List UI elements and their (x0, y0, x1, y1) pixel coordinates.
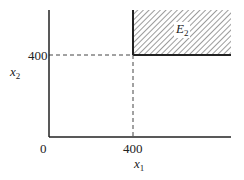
x-tick-400: 400 (123, 142, 143, 155)
region-label: E2 (174, 22, 190, 38)
y-tick-400: 400 (28, 49, 48, 62)
y-axis-label: x2 (10, 65, 20, 81)
x-tick-0: 0 (40, 142, 47, 155)
x-axis-label: x1 (134, 157, 144, 173)
diagram-canvas (0, 0, 244, 180)
